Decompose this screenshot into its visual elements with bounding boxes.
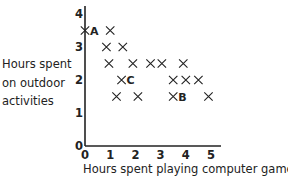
x-tick-label: 5 — [207, 148, 215, 162]
x-tick-label: 3 — [157, 148, 165, 162]
scatter-chart: 01234501234ACB Hours spent on outdoor ac… — [0, 0, 288, 179]
cross-marker-icon — [112, 92, 120, 100]
point-label-b: B — [178, 91, 186, 104]
cross-marker-icon — [182, 76, 190, 84]
cross-marker-icon — [169, 92, 177, 100]
y-tick-label: 3 — [75, 40, 83, 54]
point-label-a: A — [90, 25, 99, 38]
cross-marker-icon — [179, 59, 187, 67]
cross-marker-icon — [158, 59, 166, 67]
y-axis-label-line-2: on outdoor — [2, 74, 72, 93]
cross-marker-icon — [146, 59, 154, 67]
cross-marker-icon — [194, 76, 202, 84]
point-label-c: C — [127, 74, 135, 87]
x-tick-label: 2 — [131, 148, 139, 162]
y-tick-label: 1 — [75, 106, 83, 120]
y-tick-label: 0 — [75, 139, 83, 153]
cross-marker-icon — [169, 76, 177, 84]
y-axis-label-line-3: activities — [2, 92, 72, 111]
y-axis-label: Hours spent on outdoor activities — [2, 55, 72, 111]
cross-marker-icon — [204, 92, 212, 100]
cross-marker-icon — [117, 76, 125, 84]
x-axis-label: Hours spent playing computer games — [83, 162, 288, 176]
x-tick-label: 1 — [106, 148, 114, 162]
y-tick-label: 4 — [75, 7, 83, 21]
cross-marker-icon — [102, 43, 110, 51]
y-tick-label: 2 — [75, 73, 83, 87]
cross-marker-icon — [106, 26, 114, 34]
cross-marker-icon — [134, 92, 142, 100]
cross-marker-icon — [105, 59, 113, 67]
x-tick-label: 4 — [182, 148, 190, 162]
y-axis-label-line-1: Hours spent — [2, 55, 72, 74]
cross-marker-icon — [129, 59, 137, 67]
cross-marker-icon — [119, 43, 127, 51]
